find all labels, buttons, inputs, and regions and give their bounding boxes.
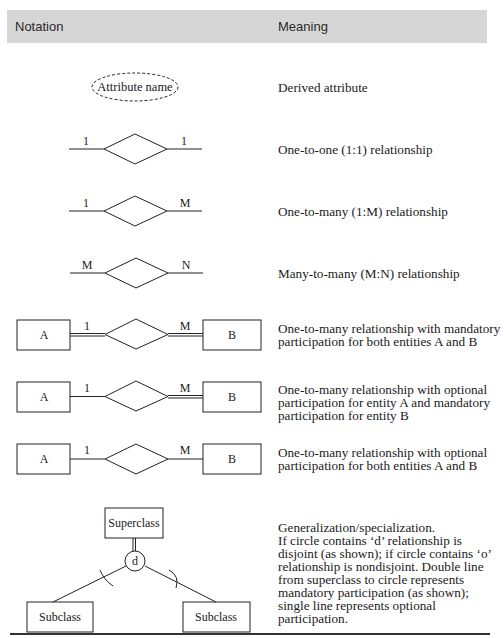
entity-a-label: A <box>40 328 49 342</box>
entity-a-label: A <box>40 452 49 466</box>
bottom-rule <box>10 633 490 635</box>
cardinality-right: N <box>182 258 191 272</box>
cardinality-left: 1 <box>83 196 89 210</box>
superclass-label: Superclass <box>108 516 160 530</box>
cardinality-right: M <box>180 443 191 457</box>
subclass-left-label: Subclass <box>39 610 81 624</box>
subclass-right-label: Subclass <box>195 610 237 624</box>
cardinality-left: 1 <box>84 319 90 333</box>
derived-attribute-ellipse: Attribute name <box>92 73 178 101</box>
cardinality-right: 1 <box>181 134 187 148</box>
cardinality-left: 1 <box>84 443 90 457</box>
meaning-derived-attribute: Derived attribute <box>278 81 368 94</box>
meaning-mandatory-both: One-to-many relationship with mandatory … <box>278 322 500 348</box>
cardinality-left: 1 <box>84 381 90 395</box>
entity-b-label: B <box>228 452 236 466</box>
relationship-1-m: 1 M <box>69 196 202 226</box>
entity-relationship-optional-both: A B 1 M <box>17 443 261 474</box>
meaning-one-to-many: One-to-many (1:M) relationship <box>278 205 448 218</box>
cardinality-left: M <box>82 258 93 272</box>
disjoint-circle-label: d <box>132 554 138 568</box>
meaning-many-to-many: Many-to-many (M:N) relationship <box>278 267 460 280</box>
generalization-diagram: Superclass d Subclass Subclass <box>27 508 250 632</box>
meaning-optional-a-mandatory-b: One-to-many relationship with optional p… <box>278 383 490 422</box>
cardinality-right: M <box>180 381 191 395</box>
cardinality-right: M <box>180 319 191 333</box>
entity-b-label: B <box>228 328 236 342</box>
attribute-name-label: Attribute name <box>97 80 173 94</box>
relationship-1-1: 1 1 <box>69 134 202 164</box>
entity-relationship-optional-a-mandatory-b: A B 1 M <box>17 381 261 412</box>
cardinality-right: M <box>180 196 191 210</box>
entity-a-label: A <box>40 390 49 404</box>
meaning-one-to-one: One-to-one (1:1) relationship <box>278 143 433 156</box>
entity-b-label: B <box>228 390 236 404</box>
meaning-generalization: Generalization/specialization. If circle… <box>278 521 492 625</box>
cardinality-left: 1 <box>83 134 89 148</box>
meaning-optional-both: One-to-many relationship with optional p… <box>278 446 487 472</box>
entity-relationship-mandatory-both: A B 1 M <box>17 319 261 350</box>
relationship-m-n: M N <box>70 258 203 288</box>
